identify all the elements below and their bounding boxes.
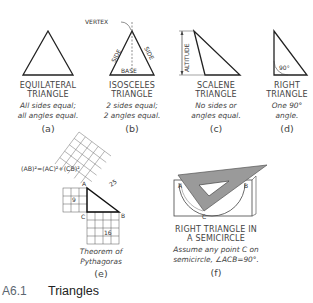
panel-letter-a: (a) bbox=[41, 123, 54, 134]
panel-letter-f: (f) bbox=[211, 267, 222, 278]
equilateral-triangle-shape bbox=[23, 31, 73, 75]
point-c-label-e: C bbox=[81, 213, 85, 220]
scalene-desc-line1: No sides or bbox=[195, 101, 237, 110]
panel-semicircle: A B C RIGHT TRIANGLE IN A SEMICIRCLE Ass… bbox=[172, 165, 267, 278]
vertex-leader-line bbox=[121, 22, 131, 30]
panel-letter-e: (e) bbox=[94, 268, 107, 279]
equilateral-name-line2: TRIANGLE bbox=[26, 90, 69, 99]
square-ac-value: 9 bbox=[72, 196, 76, 203]
scalene-name-line1: SCALENE bbox=[197, 81, 235, 90]
isosceles-desc-line1: 2 sides equal; bbox=[106, 101, 157, 110]
point-b-label-e: B bbox=[121, 212, 125, 219]
pythagoras-desc-line1: Theorem of bbox=[80, 247, 124, 256]
board-edge bbox=[252, 176, 256, 180]
scalene-name-line2: TRIANGLE bbox=[194, 90, 237, 99]
vertex-label: VERTEX bbox=[85, 18, 108, 25]
semicircle-desc-line1: Assume any point C on bbox=[172, 245, 259, 254]
equilateral-desc-line1: All sides equal; bbox=[19, 101, 76, 110]
panel-pythagoras: (AB)²=(AC)²+(CB)² 9 16 25 A B C bbox=[21, 132, 125, 279]
semicircle-name-line1: RIGHT TRIANGLE IN bbox=[175, 225, 257, 234]
isosceles-desc-line2: 2 angles equal. bbox=[104, 111, 161, 120]
panel-letter-d: (d) bbox=[280, 123, 293, 134]
right-desc-line2: angle. bbox=[276, 111, 299, 120]
pythagoras-triangle-shape bbox=[87, 188, 119, 212]
equilateral-desc-line2: all angles equal. bbox=[18, 111, 79, 120]
panel-equilateral: EQUILATERAL TRIANGLE All sides equal; al… bbox=[18, 31, 79, 134]
scalene-desc-line2: angles equal. bbox=[191, 111, 241, 120]
right-name-line1: RIGHT bbox=[274, 81, 300, 90]
semicircle-desc-line2: semicircle, ∠ACB=90°. bbox=[173, 255, 259, 264]
pythagoras-desc-line2: Pythagoras bbox=[80, 257, 122, 266]
altitude-label: ALTITUDE bbox=[183, 43, 190, 72]
panel-right: 90° RIGHT TRIANGLE One 90° angle. (d) bbox=[265, 31, 308, 134]
panel-scalene: ALTITUDE SCALENE TRIANGLE No sides or an… bbox=[179, 31, 241, 134]
right-name-line2: TRIANGLE bbox=[265, 90, 308, 99]
square-cb-value: 16 bbox=[104, 229, 112, 236]
isosceles-name-line1: ISOSCELES bbox=[109, 81, 155, 90]
right-desc-line1: One 90° bbox=[272, 101, 303, 110]
isosceles-name-line2: TRIANGLE bbox=[110, 90, 153, 99]
point-a-label-e: A bbox=[82, 180, 87, 187]
panel-letter-b: (b) bbox=[125, 123, 138, 134]
square-cb-grid bbox=[87, 212, 119, 244]
point-c-label-f: C bbox=[202, 213, 206, 220]
angle-90-label: 90° bbox=[279, 64, 290, 71]
semicircle-name-line2: A SEMICIRCLE bbox=[187, 234, 245, 243]
panel-letter-c: (c) bbox=[210, 123, 223, 134]
base-label: BASE bbox=[121, 67, 137, 74]
altitude-arrow-top bbox=[181, 31, 184, 35]
figure-title: Triangles bbox=[48, 284, 99, 298]
equilateral-name-line1: EQUILATERAL bbox=[20, 81, 77, 90]
side-right-label: SIDE bbox=[143, 45, 156, 61]
triangles-figure: EQUILATERAL TRIANGLE All sides equal; al… bbox=[0, 0, 313, 303]
panel-isosceles: VERTEX SIDE SIDE BASE ISOSCELES TRIANGLE… bbox=[85, 18, 160, 134]
figure-number: A6.1 bbox=[2, 284, 27, 298]
point-b-label-f: B bbox=[244, 182, 248, 189]
board-edge-3 bbox=[252, 214, 256, 216]
scalene-triangle-shape bbox=[194, 31, 240, 75]
square-ab-value: 25 bbox=[108, 178, 118, 188]
